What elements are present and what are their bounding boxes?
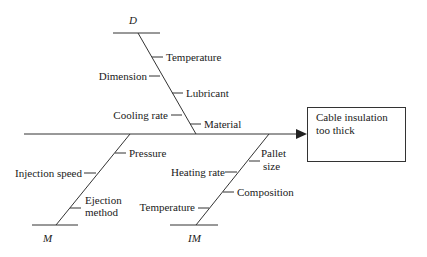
cause-m-injection-speed: Injection speed xyxy=(15,167,82,179)
cause-im-heating-rate: Heating rate xyxy=(171,166,225,178)
category-label-m: M xyxy=(43,232,52,244)
effect-line-2: too thick xyxy=(316,124,405,137)
cause-m-ejection-line1: Ejection xyxy=(85,194,122,206)
effect-line-1: Cable insulation xyxy=(316,111,405,124)
category-label-d: D xyxy=(129,14,137,26)
fishbone-diagram: D M IM Temperature Dimension Lubricant C… xyxy=(0,0,427,257)
cause-im-pallet-line2: size xyxy=(263,160,280,172)
cause-d-temperature: Temperature xyxy=(166,51,221,63)
cause-im-pallet-line1: Pallet xyxy=(261,147,286,159)
category-label-im: IM xyxy=(188,232,201,244)
cause-im-composition: Composition xyxy=(237,186,294,198)
effect-box: Cable insulation too thick xyxy=(307,107,406,162)
cause-d-cooling-rate: Cooling rate xyxy=(113,109,168,121)
cause-d-material: Material xyxy=(204,118,241,130)
im-bone xyxy=(196,134,269,225)
cause-im-temperature: Temperature xyxy=(140,201,195,213)
cause-m-ejection-line2: method xyxy=(85,206,118,218)
cause-d-lubricant: Lubricant xyxy=(186,87,229,99)
cause-d-dimension: Dimension xyxy=(99,70,147,82)
cause-m-pressure: Pressure xyxy=(129,147,166,159)
arrowhead-icon xyxy=(296,129,307,139)
